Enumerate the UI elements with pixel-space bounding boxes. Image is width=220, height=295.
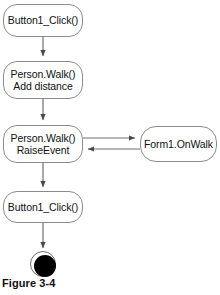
node-label-line: Form1.OnWalk <box>144 138 213 151</box>
node-button1-click-bottom[interactable]: Button1_Click() <box>3 191 83 223</box>
node-form1-onwalk[interactable]: Form1.OnWalk <box>140 126 217 162</box>
node-person-walk-add-distance[interactable]: Person.Walk() Add distance <box>3 61 83 99</box>
node-label-line: Person.Walk() <box>11 68 76 81</box>
node-label-line: Button1_Click() <box>8 14 78 27</box>
final-state-node <box>30 251 56 277</box>
node-label-line: Person.Walk() <box>11 132 76 145</box>
node-person-walk-raise-event[interactable]: Person.Walk() RaiseEvent <box>3 125 83 163</box>
node-button1-click-top[interactable]: Button1_Click() <box>3 4 83 37</box>
node-label-line: Button1_Click() <box>8 201 78 214</box>
diagram-canvas: Button1_Click() Person.Walk() Add distan… <box>0 0 220 295</box>
node-label-line: Add distance <box>13 80 73 93</box>
final-state-fill <box>34 255 56 277</box>
node-label-line: RaiseEvent <box>17 144 70 157</box>
